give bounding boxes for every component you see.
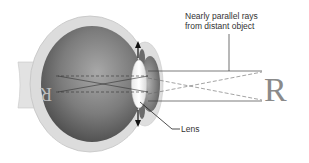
eye-diagram: R R Nearly parallel rays from distant ob…	[0, 0, 309, 163]
rays-label: Nearly parallel rays from distant object	[185, 11, 258, 31]
eye-illustration: R R	[0, 0, 309, 163]
eyeball-interior	[41, 26, 143, 142]
object-letter: R	[264, 71, 287, 108]
ray-dashed-2	[148, 72, 262, 94]
rays-label-line1: Nearly parallel rays	[185, 11, 258, 21]
rays-label-line2: from distant object	[185, 21, 258, 31]
lens	[132, 60, 147, 108]
ray-dashed-1	[148, 78, 262, 100]
retina-image-letter: R	[40, 84, 52, 104]
lens-label: Lens	[181, 124, 199, 134]
